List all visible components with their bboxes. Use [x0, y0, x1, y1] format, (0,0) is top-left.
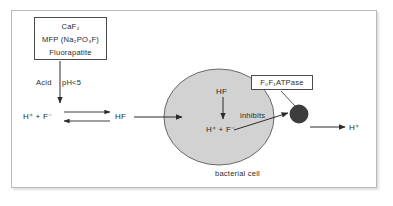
- proton-efflux-label: H⁺: [349, 124, 359, 132]
- atpase-label-box: F₀F₁ATPase: [251, 75, 313, 90]
- figure-root: CaF₂ MFP (Na₂PO₃F) Fluorapatite F₀F₁ATPa…: [0, 0, 393, 206]
- atpase-leader-line: [281, 91, 295, 106]
- inhibits-label: inhibits: [240, 112, 265, 120]
- reagent-source-box: CaF₂ MFP (Na₂PO₃F) Fluorapatite: [34, 17, 107, 60]
- acid-label: Acid: [36, 79, 52, 87]
- ph-label: pH<5: [62, 79, 81, 87]
- extracellular-ions-label: H⁺ + F⁻: [23, 113, 52, 121]
- atpase-pump-icon: [290, 105, 308, 123]
- reagent-fluorapatite: Fluorapatite: [35, 49, 106, 57]
- extracellular-hf-label: HF: [115, 113, 126, 121]
- intracellular-hf-label: HF: [216, 88, 227, 96]
- reagent-calcium-fluoride: CaF₂: [35, 23, 106, 31]
- reagent-mfp: MFP (Na₂PO₃F): [35, 36, 106, 44]
- intracellular-ions-label: H⁺ + F⁻: [206, 126, 235, 134]
- bacterial-cell-caption: bacterial cell: [215, 170, 260, 178]
- atpase-label: F₀F₁ATPase: [260, 79, 303, 87]
